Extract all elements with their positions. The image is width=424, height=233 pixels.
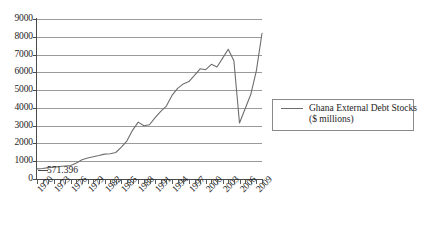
x-axis-tick-1992 bbox=[161, 180, 162, 184]
x-axis-tick-1972 bbox=[48, 180, 49, 184]
x-axis-tick-1998 bbox=[195, 180, 196, 184]
x-axis-tick-2004 bbox=[228, 180, 229, 184]
x-axis-tick-2008 bbox=[251, 180, 252, 184]
legend: Ghana External Debt Stocks ($ millions) bbox=[272, 99, 414, 131]
x-axis-tick-1996 bbox=[183, 180, 184, 184]
x-axis-tick-2001 bbox=[211, 180, 212, 184]
x-axis-tick-1993 bbox=[166, 180, 167, 184]
y-axis-label-6000: 6000 bbox=[1, 67, 33, 77]
x-axis-tick-1984 bbox=[116, 180, 117, 184]
x-axis-tick-2010 bbox=[262, 180, 263, 184]
y-axis-label-5000: 5000 bbox=[1, 85, 33, 95]
y-axis-label-3000: 3000 bbox=[1, 121, 33, 131]
x-axis-tick-1974 bbox=[60, 180, 61, 184]
y-axis-label-1000: 1000 bbox=[1, 156, 33, 166]
y-axis-label-9000: 9000 bbox=[1, 14, 33, 24]
x-axis-tick-1980 bbox=[93, 180, 94, 184]
x-axis-tick-1971 bbox=[43, 180, 44, 184]
x-axis-tick-1981 bbox=[99, 180, 100, 184]
x-axis-tick-1975 bbox=[65, 180, 66, 184]
x-axis-tick-1977 bbox=[76, 180, 77, 184]
x-axis-tick-1983 bbox=[110, 180, 111, 184]
y-axis-label-8000: 8000 bbox=[1, 32, 33, 42]
y-axis: 0100020003000400050006000700080009000 bbox=[0, 0, 33, 233]
y-axis-label-7000: 7000 bbox=[1, 50, 33, 60]
x-axis-tick-2007 bbox=[245, 180, 246, 184]
x-axis-tick-1999 bbox=[200, 180, 201, 184]
x-axis-tick-2005 bbox=[234, 180, 235, 184]
y-axis-label-2000: 2000 bbox=[1, 138, 33, 148]
legend-label-line-1: Ghana External Debt Stocks bbox=[309, 103, 417, 114]
series-ghana-external-debt-stocks bbox=[37, 19, 262, 179]
x-axis-tick-1986 bbox=[127, 180, 128, 184]
y-axis-label-4000: 4000 bbox=[1, 103, 33, 113]
x-axis-tick-1987 bbox=[133, 180, 134, 184]
legend-label-line-2: ($ millions) bbox=[309, 114, 354, 125]
x-axis-tick-2002 bbox=[217, 180, 218, 184]
annotation-first-value: 571.396 bbox=[47, 165, 78, 175]
legend-swatch-icon bbox=[281, 108, 303, 109]
x-axis-tick-1978 bbox=[82, 180, 83, 184]
x-axis-tick-1995 bbox=[178, 180, 179, 184]
x-axis-tick-1990 bbox=[150, 180, 151, 184]
x-axis-tick-1989 bbox=[144, 180, 145, 184]
y-axis-label-0: 0 bbox=[1, 174, 33, 184]
chart-container: 0100020003000400050006000700080009000 57… bbox=[0, 0, 424, 233]
